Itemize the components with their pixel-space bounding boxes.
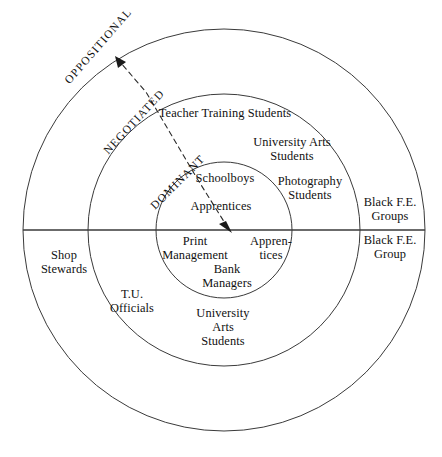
label-black-fe-groups: Black F.E.Groups [364,196,417,224]
label-black-fe-group: Black F.E.Group [364,234,417,262]
concentric-circle-diagram [0,0,442,457]
label-print-management: PrintManagement [162,235,228,263]
label-apprentices-lower: Appren-tices [250,235,292,263]
label-apprentices-upper: Apprentices [191,200,252,214]
label-university-arts-students-upper: University ArtsStudents [253,136,331,164]
label-schoolboys: Schoolboys [196,172,255,186]
label-bank-managers: BankManagers [202,263,252,291]
label-teacher-training-students: Teacher Training Students [159,107,291,121]
label-tu-officials: T.U.Officials [110,288,154,316]
label-university-arts-students-lower: UniversityArtsStudents [196,307,249,349]
label-photography-students: PhotographyStudents [278,175,342,203]
label-shop-stewards: ShopStewards [41,249,87,277]
